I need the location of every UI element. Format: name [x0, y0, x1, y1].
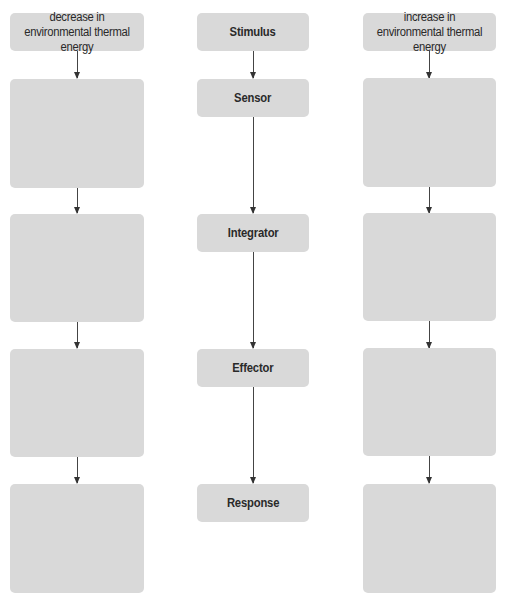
left-blank-box-2	[10, 214, 144, 322]
arrow-left-1	[77, 51, 78, 78]
stage-effector-label: Effector	[232, 361, 273, 375]
right-blank-box-2	[363, 213, 496, 321]
arrow-left-2	[77, 188, 78, 213]
arrow-center-3	[253, 252, 254, 348]
left-header-box: decrease in environmental thermal energy	[10, 13, 144, 51]
arrow-right-4	[429, 456, 430, 483]
stage-response: Response	[197, 484, 309, 522]
arrow-right-1	[429, 51, 430, 78]
left-blank-box-4	[10, 484, 144, 593]
stage-response-label: Response	[227, 496, 279, 510]
stage-sensor-label: Sensor	[234, 91, 271, 105]
right-header-box: increase in environmental thermal energy	[363, 13, 496, 51]
right-blank-box-1	[363, 78, 496, 187]
left-blank-box-1	[10, 79, 144, 188]
stage-stimulus: Stimulus	[197, 13, 309, 51]
left-header-label: decrease in environmental thermal energy	[20, 10, 133, 55]
arrow-right-2	[429, 187, 430, 213]
arrow-center-1	[253, 51, 254, 78]
arrow-right-3	[429, 321, 430, 348]
right-header-label: increase in environmental thermal energy	[373, 10, 486, 55]
right-blank-box-3	[363, 348, 496, 456]
right-blank-box-4	[363, 484, 496, 593]
stage-integrator-label: Integrator	[228, 226, 279, 240]
arrow-left-3	[77, 322, 78, 348]
stage-stimulus-label: Stimulus	[230, 25, 276, 39]
arrow-center-2	[253, 117, 254, 213]
stage-effector: Effector	[197, 349, 309, 387]
arrow-center-4	[253, 387, 254, 483]
stage-integrator: Integrator	[197, 214, 309, 252]
arrow-left-4	[77, 457, 78, 483]
left-blank-box-3	[10, 349, 144, 457]
stage-sensor: Sensor	[197, 79, 309, 117]
